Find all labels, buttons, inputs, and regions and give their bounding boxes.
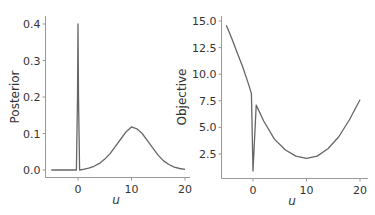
y-tick-label: 15.0 — [192, 15, 217, 28]
y-tick-label: 7.5 — [199, 95, 217, 108]
y-tick-label: 0.1 — [23, 128, 41, 141]
figure: 0.00.10.20.30.4 01020 Posterior u 2.55.0… — [0, 0, 375, 215]
objective-y-label: Objective — [175, 69, 189, 126]
objective-y-ticks: 2.55.07.510.012.515.0 — [192, 15, 222, 161]
y-tick-label: 0.4 — [23, 18, 41, 31]
posterior-curve — [51, 24, 185, 170]
y-tick-label: 12.5 — [192, 42, 217, 55]
y-tick-label: 0.0 — [23, 164, 41, 177]
y-tick-label: 2.5 — [199, 148, 217, 161]
objective-axes-spine — [222, 16, 369, 179]
x-tick-label: 20 — [353, 184, 367, 197]
posterior-axes-spine — [46, 16, 191, 178]
posterior-plot: 0.00.10.20.30.4 01020 Posterior u — [8, 16, 192, 207]
posterior-y-label: Posterior — [8, 70, 22, 123]
x-tick-label: 0 — [250, 184, 257, 197]
posterior-y-ticks: 0.00.10.20.30.4 — [23, 18, 46, 177]
x-tick-label: 0 — [75, 183, 82, 196]
y-tick-label: 10.0 — [192, 68, 217, 81]
objective-plot: 2.55.07.510.012.515.0 01020 Objective u — [175, 15, 368, 208]
x-tick-label: 10 — [300, 184, 314, 197]
y-tick-label: 5.0 — [199, 121, 217, 134]
y-tick-label: 0.2 — [23, 91, 41, 104]
objective-curve — [226, 25, 360, 171]
objective-x-label: u — [288, 194, 296, 208]
x-tick-label: 10 — [125, 183, 139, 196]
posterior-x-label: u — [112, 193, 120, 207]
y-tick-label: 0.3 — [23, 55, 41, 68]
objective-x-ticks: 01020 — [250, 179, 368, 197]
posterior-x-ticks: 01020 — [75, 178, 193, 196]
x-tick-label: 20 — [178, 183, 192, 196]
